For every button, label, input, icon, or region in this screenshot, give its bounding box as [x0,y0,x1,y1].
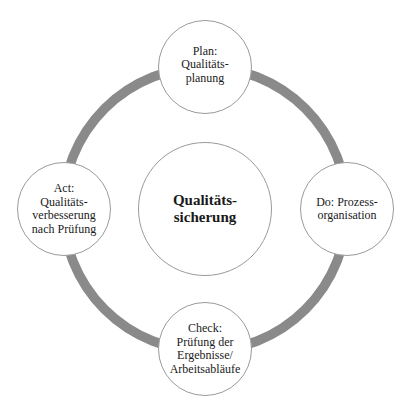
center-node-quality-assurance: Qualitäts- sicherung [138,142,272,276]
node-plan: Plan: Qualitäts- planung [158,20,252,114]
center-label: Qualitäts- sicherung [173,192,237,226]
do-label: Do: Prozess- organisation [316,196,378,223]
node-do: Do: Prozess- organisation [300,162,394,256]
act-label: Act: Qualitäts- verbesserung nach Prüfun… [32,182,96,236]
plan-label: Plan: Qualitäts- planung [181,45,228,86]
node-check: Check: Prüfung der Ergebnisse/ Arbeitsab… [158,302,252,396]
check-label: Check: Prüfung der Ergebnisse/ Arbeitsab… [170,322,241,376]
pdca-cycle-diagram: Qualitäts- sicherung Plan: Qualitäts- pl… [0,0,407,408]
node-act: Act: Qualitäts- verbesserung nach Prüfun… [17,162,111,256]
